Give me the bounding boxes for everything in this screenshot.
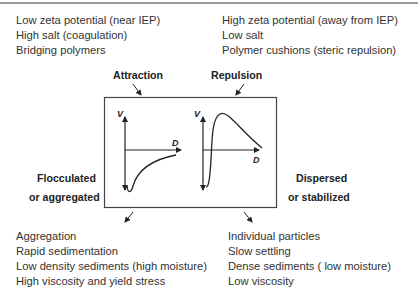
right-d-axis-label: D [253,155,260,165]
outcome-item: Low density sediments (high moisture) [16,259,207,274]
left-v-axis-label: V [117,109,124,119]
right-v-axis-label: V [194,109,201,119]
attraction-arrow-icon [133,84,141,95]
outcome-item: High viscosity and yield stress [16,274,207,289]
outcome-item: Slow settling [228,244,391,259]
attraction-plot: V D [117,109,181,192]
left-d-axis-label: D [172,138,179,148]
attraction-curve [127,155,176,192]
outcome-item: Low viscosity [228,274,391,289]
dispersed-outcome-arrow-icon [244,212,252,222]
repulsion-plot: V D [194,109,262,190]
outcome-item: Dense sediments ( low moisture) [228,259,391,274]
flocculated-outcome-arrow-icon [125,212,133,222]
repulsion-arrow-icon [236,84,244,95]
outcome-item: Aggregation [16,229,207,244]
bottom-left-outcomes: Aggregation Rapid sedimentation Low dens… [16,229,207,289]
bottom-right-outcomes: Individual particles Slow settling Dense… [228,229,391,289]
outcome-item: Rapid sedimentation [16,244,207,259]
outcome-item: Individual particles [228,229,391,244]
